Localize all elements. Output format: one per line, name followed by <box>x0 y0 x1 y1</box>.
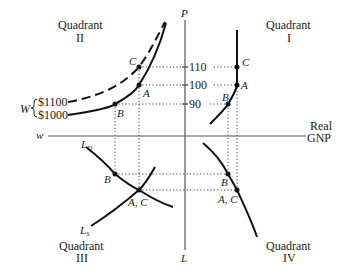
wage-label: W <box>20 102 31 116</box>
q1-point-b-label: B <box>222 91 229 103</box>
quadrant-2-title: Quadrant <box>58 18 103 32</box>
q3-point-ac-label: A, C <box>127 196 148 208</box>
quadrant-1-title: Quadrant <box>266 18 311 32</box>
price-tick-90: 90 <box>189 97 201 111</box>
q2-point-c-label: C <box>129 55 137 67</box>
q4-point-b-label: B <box>221 176 228 188</box>
wage-brace <box>31 99 37 117</box>
quadrant-3-numeral: III <box>76 251 88 265</box>
four-quadrant-diagram: 110 100 90 P L w Real GNP Quadrant II Qu… <box>0 0 349 277</box>
price-tick-110: 110 <box>189 60 207 74</box>
q3-point-b-label: B <box>104 173 111 185</box>
axis-label-w: w <box>36 129 44 141</box>
wage-1000-label: $1000 <box>38 108 68 122</box>
labor-demand-label: LD <box>80 138 92 152</box>
axis-label-l: L <box>180 252 187 264</box>
equilibrium-points <box>113 65 240 193</box>
q2-point-a-label: A <box>142 87 150 99</box>
axis-label-p: P <box>180 7 188 19</box>
quadrant-1-numeral: I <box>287 31 291 45</box>
labor-supply-label: LS <box>79 224 90 238</box>
price-tick-100: 100 <box>189 78 207 92</box>
quadrant-4-numeral: IV <box>283 251 296 265</box>
q2-point-b-label: B <box>117 107 124 119</box>
q1-point-c-label: C <box>242 56 250 68</box>
q1-point-a-label: A <box>240 79 248 91</box>
guide-lines <box>115 67 237 190</box>
quadrant-2-numeral: II <box>76 31 84 45</box>
aggregate-supply-curve <box>210 30 237 124</box>
q4-point-ac-label: A, C <box>217 193 238 205</box>
axis-label-gnp: GNP <box>307 131 331 145</box>
wage-1100-label: $1100 <box>38 95 68 109</box>
